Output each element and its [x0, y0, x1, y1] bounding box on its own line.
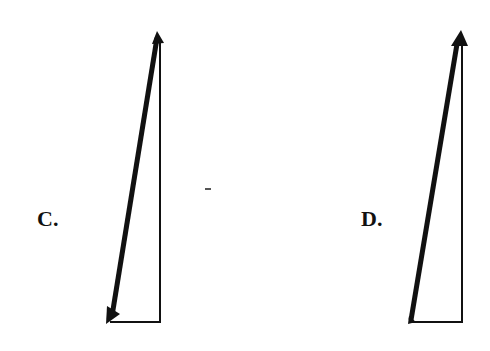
option-c-triangle — [106, 31, 164, 324]
option-c-label: C. — [37, 208, 58, 230]
option-d-hypotenuse-vector — [411, 44, 457, 320]
option-d-arrowhead-top — [451, 30, 468, 46]
vector-diagram — [0, 0, 490, 351]
option-d-label: D. — [361, 208, 382, 230]
option-c-tip-top — [152, 31, 164, 44]
stray-mark — [205, 188, 211, 190]
option-d-triangle — [408, 30, 468, 324]
option-c-hypotenuse-vector — [112, 38, 157, 316]
